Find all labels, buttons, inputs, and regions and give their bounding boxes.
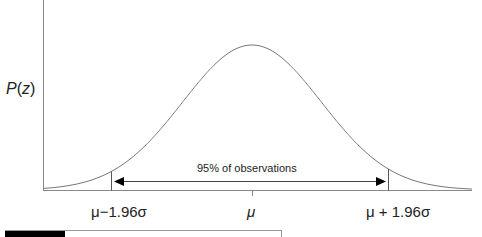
y-axis-label: P(z) (6, 80, 35, 98)
y-label-p: P (6, 80, 17, 97)
tick-label-mu: μ (247, 203, 255, 220)
y-label-paren-close: ) (30, 80, 35, 97)
arrow-right-head-icon (376, 177, 386, 186)
tick-label-upper: μ + 1.96σ (366, 203, 430, 220)
progress-bar (5, 230, 282, 237)
tick-label-lower: μ−1.96σ (91, 203, 147, 220)
arrow-left-head-icon (114, 177, 124, 186)
chart-canvas (0, 0, 482, 237)
annotation-95-percent: 95% of observations (197, 162, 297, 174)
y-label-z: z (22, 80, 30, 97)
progress-bar-fill (5, 231, 65, 237)
